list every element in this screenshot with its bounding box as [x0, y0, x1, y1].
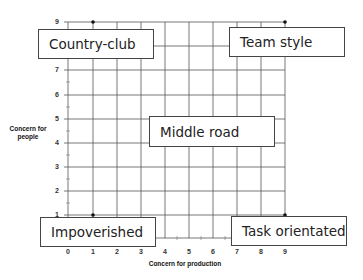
box-country-club: Country-club [38, 29, 154, 59]
x-tick-9: 9 [283, 248, 287, 255]
y-tick-3: 3 [55, 163, 59, 170]
x-tick-4: 4 [163, 248, 167, 255]
y-tick-7: 7 [55, 66, 59, 73]
y-axis-label: Concern for people [0, 125, 56, 141]
y-axis-label-line2: people [0, 133, 56, 141]
x-tick-2: 2 [115, 248, 119, 255]
y-tick-5: 5 [55, 115, 59, 122]
y-tick-2: 2 [55, 187, 59, 194]
x-tick-6: 6 [211, 248, 215, 255]
box-impoverished: Impoverished [40, 217, 156, 247]
box-middle-road: Middle road [149, 116, 275, 147]
x-tick-0: 0 [66, 248, 70, 255]
x-tick-1: 1 [91, 248, 95, 255]
y-axis-label-line1: Concern for [0, 125, 56, 133]
point-country-club [91, 20, 95, 24]
x-axis-label: Concern for production [130, 260, 240, 268]
box-task-orientated: Task orientated [231, 216, 347, 246]
x-tick-3: 3 [139, 248, 143, 255]
y-tick-6: 6 [55, 91, 59, 98]
x-tick-7: 7 [235, 248, 239, 255]
x-tick-8: 8 [259, 248, 263, 255]
point-team-style [283, 20, 287, 24]
box-team-style: Team style [229, 27, 345, 57]
x-tick-5: 5 [187, 248, 191, 255]
y-tick-9: 9 [55, 18, 59, 25]
